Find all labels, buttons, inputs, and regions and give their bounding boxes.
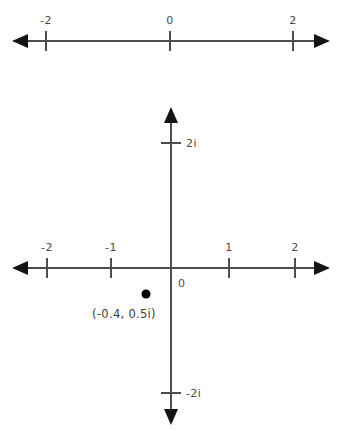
number-line-label-neg2: -2: [40, 14, 52, 27]
number-line-left-arrow-icon: [12, 34, 28, 48]
complex-plane-plot: -2 -1 1 2 2i -2i 0 (-0.4, 0.5i): [12, 107, 330, 425]
origin-label: 0: [178, 277, 185, 290]
plotted-point-label: (-0.4, 0.5i): [92, 307, 156, 321]
number-line-label-0: 0: [166, 14, 173, 27]
number-line-label-2: 2: [289, 14, 296, 27]
complex-number-figure: -2 0 2 -2 -1 1 2: [0, 0, 342, 431]
real-label-neg2: -2: [41, 241, 53, 254]
number-line-right-arrow-icon: [314, 34, 330, 48]
real-label-neg1: -1: [105, 241, 117, 254]
imaginary-label-neg2i: -2i: [186, 387, 201, 400]
imaginary-axis-top-arrow-icon: [164, 107, 178, 123]
real-axis-right-arrow-icon: [314, 261, 330, 275]
real-label-2: 2: [291, 241, 298, 254]
plotted-point-marker: [142, 290, 151, 299]
real-label-1: 1: [225, 241, 232, 254]
real-number-line-plot: -2 0 2: [12, 14, 330, 51]
imaginary-axis-bottom-arrow-icon: [164, 409, 178, 425]
figure-svg: -2 0 2 -2 -1 1 2: [0, 0, 342, 431]
imaginary-label-2i: 2i: [186, 137, 197, 150]
real-axis-left-arrow-icon: [12, 261, 28, 275]
